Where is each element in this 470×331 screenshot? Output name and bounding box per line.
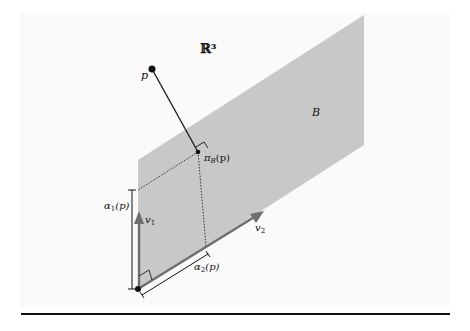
alpha2-bracket-end-tick <box>206 251 210 257</box>
alpha1-label: α1(p) <box>104 200 130 213</box>
alpha2-bracket-start-tick <box>140 292 144 298</box>
alpha2-label: α2(p) <box>194 261 220 274</box>
v2-label: v2 <box>255 222 265 235</box>
origin-point <box>135 286 141 292</box>
bottom-rule <box>21 313 450 315</box>
plane-b <box>138 15 364 290</box>
projection-point <box>196 150 201 155</box>
orthogonal-projection-diagram: ℝ³ B p πB(p) v1 v2 α1(p) α2(p) <box>0 0 470 331</box>
plane-label: B <box>311 106 320 119</box>
space-label: ℝ³ <box>200 41 217 56</box>
point-p-label: p <box>141 69 148 82</box>
point-p <box>149 66 156 73</box>
